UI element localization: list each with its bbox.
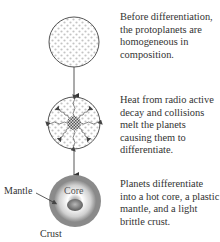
differentiated-planet-icon bbox=[36, 175, 101, 227]
stage-3-caption: Planets differentiate into a hot core, a… bbox=[120, 178, 220, 228]
stage-2-caption: Heat from radio active decay and collisi… bbox=[120, 94, 220, 157]
stage-1-caption: Before differentiation, the protoplanets… bbox=[120, 11, 220, 61]
homogeneous-protoplanet-icon bbox=[49, 17, 99, 67]
crust-label: Crust bbox=[40, 228, 62, 239]
core-label: Core bbox=[64, 185, 83, 196]
heating-protoplanet-icon bbox=[47, 96, 101, 150]
mantle-label: Mantle bbox=[4, 185, 32, 196]
